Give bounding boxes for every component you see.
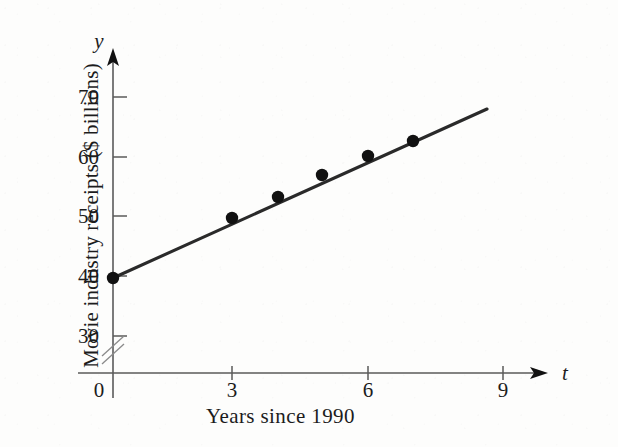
x-axis-variable-label: t [562,361,569,385]
x-tick-label-9: 9 [498,378,509,402]
data-point [407,135,419,147]
y-axis-variable-label: y [92,29,104,53]
trend-line [113,109,487,278]
x-tick-label-0: 0 [94,378,105,402]
data-point [316,169,328,181]
y-axis-title: Movie industry receipts ($ billions) [79,51,104,381]
x-tick-label-6: 6 [363,378,374,402]
data-point [226,212,238,224]
data-point [362,150,374,162]
data-point [272,191,284,203]
chart-figure: 70 60 50 40 30 0 3 6 9 y t Years since 1… [0,0,618,447]
x-axis-title: Years since 1990 [206,404,355,429]
data-point [107,272,119,284]
x-tick-label-3: 3 [227,378,238,402]
